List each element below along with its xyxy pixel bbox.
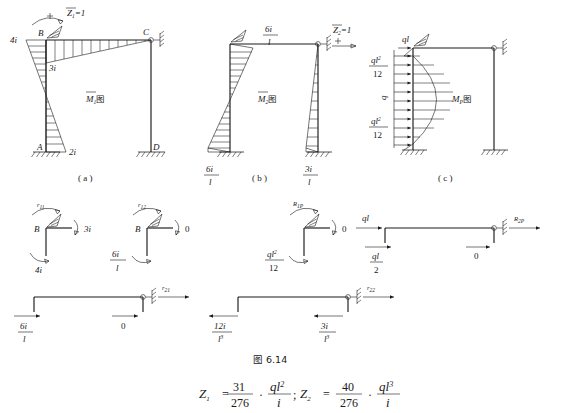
r2p-mid-reaction: 0 (466, 245, 490, 261)
svg-text:r21: r21 (162, 284, 170, 293)
svg-text:2: 2 (374, 265, 379, 275)
svg-text:ql: ql (402, 34, 410, 44)
r22-right-reaction: 3i l3 (314, 314, 343, 344)
b-label-left-base: 6i l (204, 164, 219, 187)
r2p-top-load: ql (356, 213, 382, 230)
joint-diagram-r1p: R1P 0 ql2 12 (265, 200, 347, 273)
frame-diagram-r21: 6i l 0 r21 (14, 284, 189, 344)
svg-text:6i: 6i (112, 249, 120, 259)
svg-text:l: l (23, 334, 26, 344)
c-label-ql: ql (398, 34, 411, 50)
applied-z2-label: Z2=1 (333, 25, 351, 36)
svg-text:l: l (116, 263, 119, 273)
svg-text:M1图: M1图 (85, 94, 105, 105)
svg-text:12: 12 (373, 69, 382, 79)
c-support-right (482, 150, 509, 155)
svg-text:ql: ql (372, 251, 380, 261)
r21-left-reaction: 6i l (14, 314, 40, 344)
frame-diagram-r2p: ql ql 2 0 R2P (356, 213, 540, 275)
panel-c-title: MP图 (451, 94, 472, 105)
svg-text:r22: r22 (367, 284, 375, 293)
support-a-fixed (32, 152, 61, 157)
r21-mid-reaction: 0 (112, 314, 138, 331)
eq-equals-2: = (323, 387, 330, 401)
c-joint-wedge (414, 34, 429, 46)
svg-text:3i: 3i (304, 164, 313, 174)
svg-text:3i: 3i (320, 321, 329, 331)
r12-value-bottom: 6i l (110, 249, 126, 273)
r11-value-bottom: 4i (35, 265, 43, 275)
label-2i-base: 2i (69, 147, 77, 157)
caption-b: ( b ) (252, 173, 267, 183)
svg-text:0: 0 (474, 251, 479, 261)
c-label-top-moment: ql2 12 (369, 55, 388, 79)
r12-bottom-moment (132, 256, 151, 264)
svg-text:6i: 6i (206, 164, 214, 174)
joint-b-wedge (47, 26, 62, 38)
svg-text:12i: 12i (214, 321, 226, 331)
panel-b-title: M2图 (257, 92, 277, 105)
r1p-label: R1P (292, 200, 304, 209)
r22-reaction-arrow: r22 (363, 284, 394, 299)
moment-beam-bc (46, 40, 151, 63)
panel-a-m1-diagram: Z1=1 4i (10, 8, 165, 183)
svg-text:0: 0 (121, 321, 126, 331)
r1p-value-right: 0 (342, 224, 347, 234)
c-distributed-load-q (394, 50, 411, 148)
r12-wedge (148, 214, 162, 227)
svg-text:6i: 6i (20, 321, 28, 331)
r11-right-moment (74, 220, 79, 235)
panel-b-m2-diagram: Z2=1 (204, 24, 356, 187)
svg-text:M2图: M2图 (257, 94, 277, 105)
c-label-q: q (378, 95, 388, 100)
r12-value-right: 0 (185, 224, 190, 234)
eq-f1-num: ql2 (270, 379, 284, 394)
support-d-fixed (137, 152, 166, 157)
eq-dot2: · (368, 388, 372, 402)
applied-z1-label: Z1=1 (67, 8, 85, 19)
eq-z1: Z1 (199, 386, 210, 403)
node-b-label: B (38, 28, 44, 38)
eq-f1-den: i (277, 395, 281, 410)
r2p-left-reaction: ql 2 (365, 245, 391, 275)
figure-6-14: Z1=1 4i (0, 0, 565, 413)
svg-text:ql2: ql2 (267, 249, 277, 259)
r11-node-b: B (34, 224, 40, 234)
r2p-reaction-arrow: R2P (509, 215, 540, 230)
c-support-left (401, 150, 428, 155)
svg-text:R2P: R2P (513, 215, 525, 224)
moment-left-upper (26, 40, 46, 95)
r12-right-moment (175, 220, 180, 235)
r11-label: r11 (37, 201, 45, 210)
eq-n1: 31 (233, 380, 245, 394)
svg-text:ql2: ql2 (371, 116, 381, 126)
r12-arrow (133, 208, 161, 215)
b-moment-right-column (306, 44, 318, 152)
moment-left-lower (46, 95, 66, 152)
node-d-label: D (152, 142, 160, 152)
eq-separator: ; (293, 388, 296, 402)
r12-label: r12 (138, 201, 146, 210)
panel-a-title: M1图 (85, 92, 105, 105)
b-label-right-base: 3i l (303, 164, 318, 187)
c-label-bottom-moment: ql2 12 (369, 116, 388, 140)
r12-node-b: B (135, 224, 141, 234)
applied-rotation-z1 (32, 13, 63, 25)
caption-c: ( c ) (438, 173, 453, 183)
svg-text:l: l (209, 177, 212, 187)
b-joint-wedge (231, 30, 246, 42)
applied-translation-z2 (332, 38, 356, 48)
r11-wedge (47, 214, 61, 227)
final-equation: Z1 = 31 276 · ql2 i ; Z2 = 40 276 · ql3 … (199, 379, 400, 410)
label-4i-top: 4i (10, 35, 18, 45)
r22-left-reaction: 12i l3 (209, 314, 238, 344)
node-a-label: A (36, 142, 43, 152)
r11-value-right: 3i (83, 224, 92, 234)
joint-diagram-r12: r12 B 0 6i l (110, 201, 190, 273)
eq-n2: 40 (342, 380, 354, 394)
eq-f2-num: ql3 (379, 379, 393, 394)
r1p-arrow (290, 208, 318, 215)
panel-c-mp-diagram: ql ql2 12 q ql2 12 MP图 ( c ) (369, 34, 508, 183)
r21-reaction-arrow: r21 (158, 284, 189, 299)
svg-text:l: l (268, 37, 271, 47)
